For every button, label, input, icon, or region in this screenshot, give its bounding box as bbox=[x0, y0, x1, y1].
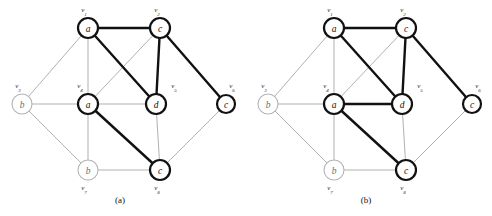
thin-edge-layer bbox=[268, 28, 472, 170]
panel-caption: (a) bbox=[115, 195, 125, 205]
edge-v4-v8 bbox=[334, 104, 406, 170]
edge-v6-v8 bbox=[160, 104, 226, 170]
node-label-v5: d bbox=[154, 100, 159, 110]
node-label-v1: a bbox=[332, 24, 337, 34]
node-label-v4: a bbox=[86, 100, 91, 110]
node-layer: av1cv2bv3av4dv5cv6bv7cv8 bbox=[258, 6, 481, 195]
node-tag-v4: v4 bbox=[323, 82, 329, 93]
node-tag-v6: v6 bbox=[475, 82, 481, 93]
node-tag-v2: v2 bbox=[400, 6, 406, 17]
node-label-v1: a bbox=[86, 24, 91, 34]
node-tag-v7: v7 bbox=[81, 184, 87, 195]
edge-v1-v3 bbox=[22, 28, 88, 104]
node-label-v3: b bbox=[266, 100, 271, 110]
edge-v2-v6 bbox=[160, 28, 226, 104]
graph-panel-b: av1cv2bv3av4dv5cv6bv7cv8(b) bbox=[246, 0, 492, 216]
edge-v2-v6 bbox=[406, 28, 472, 104]
edge-v3-v7 bbox=[22, 104, 88, 170]
node-tag-v5: v5 bbox=[417, 82, 423, 93]
node-tag-v7: v7 bbox=[327, 184, 333, 195]
graph-panel-a: av1cv2bv3av4dv5cv6bv7cv8(a) bbox=[0, 0, 246, 216]
node-label-v7: b bbox=[86, 166, 91, 176]
node-tag-v3: v3 bbox=[15, 82, 21, 93]
node-layer: av1cv2bv3av4dv5cv6bv7cv8 bbox=[12, 6, 235, 195]
panel-caption: (b) bbox=[361, 195, 372, 205]
node-tag-v3: v3 bbox=[261, 82, 267, 93]
node-tag-v5: v5 bbox=[171, 82, 177, 93]
node-tag-v8: v8 bbox=[154, 184, 160, 195]
graph-figure: av1cv2bv3av4dv5cv6bv7cv8(a) av1cv2bv3av4… bbox=[0, 0, 492, 216]
edge-v1-v3 bbox=[268, 28, 334, 104]
edge-v3-v7 bbox=[268, 104, 334, 170]
node-label-v7: b bbox=[332, 166, 337, 176]
node-label-v4: a bbox=[332, 100, 337, 110]
node-label-v3: b bbox=[20, 100, 25, 110]
edge-v4-v8 bbox=[88, 104, 160, 170]
edge-v2-v5 bbox=[402, 28, 406, 104]
thin-edge-layer bbox=[22, 28, 226, 170]
node-tag-v8: v8 bbox=[400, 184, 406, 195]
node-tag-v1: v1 bbox=[81, 6, 87, 17]
node-tag-v6: v6 bbox=[229, 82, 235, 93]
node-tag-v1: v1 bbox=[327, 6, 333, 17]
node-tag-v2: v2 bbox=[154, 6, 160, 17]
edge-v2-v5 bbox=[156, 28, 160, 104]
node-label-v5: d bbox=[400, 100, 405, 110]
node-tag-v4: v4 bbox=[77, 82, 83, 93]
edge-v6-v8 bbox=[406, 104, 472, 170]
